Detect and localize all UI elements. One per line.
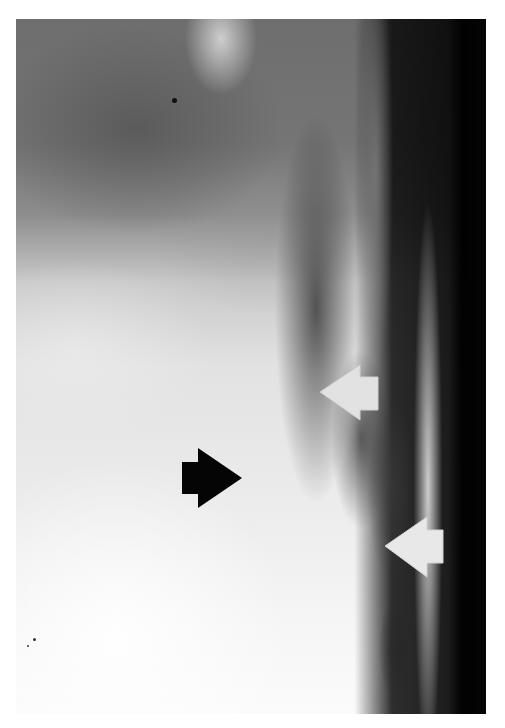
left-arrow-icon [383, 515, 447, 579]
speck [27, 645, 29, 647]
left-arrow-icon [318, 362, 382, 424]
artifact-dot [172, 98, 177, 103]
radiograph-right-edge [16, 19, 486, 714]
right-arrow-icon [180, 446, 246, 510]
radiograph-image [16, 19, 486, 714]
speck [33, 638, 36, 641]
